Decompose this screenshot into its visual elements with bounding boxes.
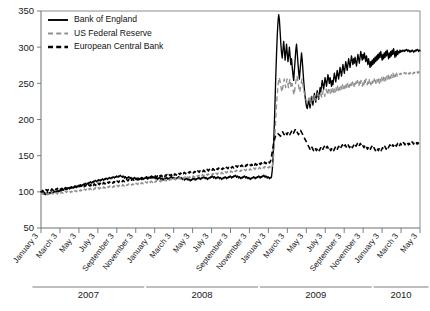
legend-label: European Central Bank — [74, 41, 164, 51]
legend-item-us-federal-reserve: US Federal Reserve — [48, 28, 152, 38]
year-label: 2009 — [305, 289, 326, 300]
series-line-european-central-bank — [41, 129, 420, 192]
legend-label: Bank of England — [74, 14, 137, 24]
legend-item-european-central-bank: European Central Bank — [48, 41, 164, 51]
x-tick-label: January 3 — [11, 231, 40, 265]
x-tick-label: May 3 — [171, 231, 192, 254]
y-tick-label: 150 — [18, 150, 34, 161]
legend-label: US Federal Reserve — [74, 28, 152, 38]
y-tick-label: 250 — [18, 78, 34, 89]
x-tick-label: May 3 — [399, 231, 420, 254]
y-tick-label: 350 — [18, 5, 34, 16]
chart-container: 50100150200250300350January 3March 3May … — [0, 0, 430, 311]
y-tick-label: 300 — [18, 42, 34, 53]
y-tick-label: 100 — [18, 186, 34, 197]
x-tick-label: May 3 — [285, 231, 306, 254]
x-tick-label: May 3 — [57, 231, 78, 254]
y-tick-label: 200 — [18, 114, 34, 125]
year-label: 2010 — [390, 289, 411, 300]
legend-item-bank-of-england: Bank of England — [48, 14, 137, 24]
year-label: 2008 — [192, 289, 213, 300]
line-chart: 50100150200250300350January 3March 3May … — [0, 0, 430, 311]
year-label: 2007 — [78, 289, 99, 300]
